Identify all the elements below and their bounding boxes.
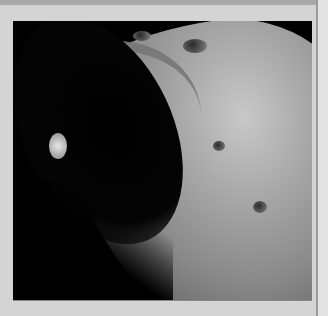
top-bar [0, 0, 328, 5]
crater [133, 31, 151, 41]
crater [253, 201, 267, 213]
right-edge-bar [316, 0, 328, 316]
crater [213, 141, 225, 151]
bright-ridge [49, 133, 67, 159]
space-shadow [13, 180, 173, 300]
moon-photo [13, 21, 312, 301]
crater [183, 39, 207, 53]
